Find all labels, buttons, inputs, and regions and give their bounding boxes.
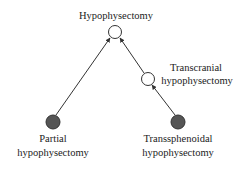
- label-partial-line2: hypophysectomy: [17, 147, 89, 158]
- node-transcranial: [142, 73, 155, 86]
- label-transsphenoidal-line2: hypophysectomy: [142, 147, 214, 158]
- label-transcranial-line1: Transcranial: [170, 62, 222, 73]
- hierarchy-diagram: Hypophysectomy Transcranial hypophysecto…: [0, 0, 250, 170]
- node-partial: [46, 115, 60, 129]
- node-transsphenoidal: [171, 115, 185, 129]
- edge-transcranial-to-hypophysectomy: [120, 38, 144, 73]
- label-hypophysectomy: Hypophysectomy: [79, 10, 154, 21]
- edge-transsphenoidal-to-transcranial: [152, 85, 175, 115]
- label-transcranial-line2: hypophysectomy: [161, 75, 233, 86]
- label-transsphenoidal-line1: Transsphenoidal: [143, 133, 212, 144]
- label-partial-line1: Partial: [39, 133, 66, 144]
- edge-partial-to-hypophysectomy: [56, 38, 110, 115]
- node-hypophysectomy: [109, 26, 122, 39]
